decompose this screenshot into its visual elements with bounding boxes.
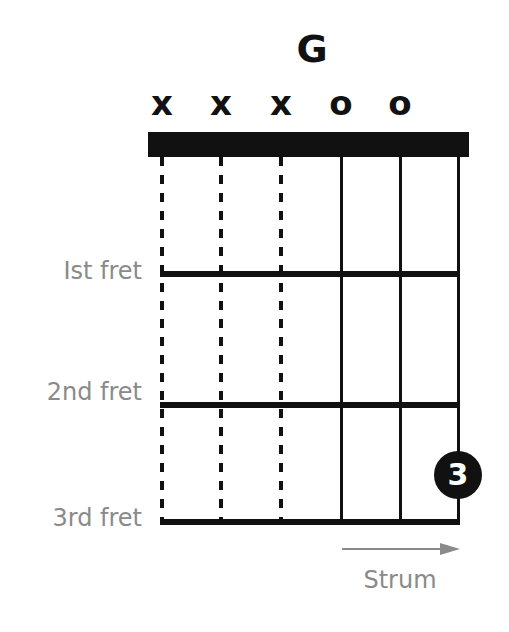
- strum-label: Strum: [350, 568, 450, 592]
- string-3-muted: [279, 157, 283, 525]
- fret-label-2: 2nd fret: [2, 380, 142, 404]
- string-5: [399, 157, 402, 525]
- fret-line-1: [160, 271, 460, 277]
- fret-line-2: [160, 402, 460, 408]
- chord-name: G: [292, 30, 332, 68]
- string-marker-muted: x: [145, 86, 179, 120]
- string-marker-open: o: [383, 86, 417, 120]
- fret-line-3: [160, 519, 460, 525]
- fret-label-1: Ist fret: [2, 259, 142, 283]
- strum-arrow-icon: [440, 543, 460, 555]
- string-marker-open: o: [324, 86, 358, 120]
- string-marker-muted: x: [204, 86, 238, 120]
- string-2-muted: [219, 157, 223, 525]
- string-4: [340, 157, 343, 525]
- nut: [148, 132, 469, 157]
- finger-position-marker: 3: [434, 451, 482, 499]
- strum-arrow-line: [342, 548, 442, 550]
- string-1-muted: [160, 157, 164, 525]
- fret-label-3: 3rd fret: [2, 506, 142, 530]
- string-marker-muted: x: [264, 86, 298, 120]
